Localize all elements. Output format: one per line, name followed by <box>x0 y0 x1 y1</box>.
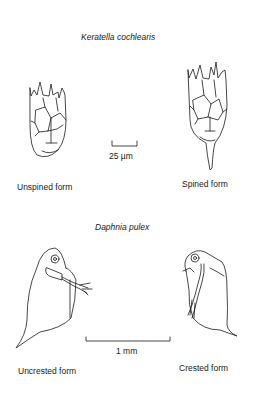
panel-title-keratella: Keratella cochlearis <box>81 32 155 42</box>
keratella-spined-drawing <box>188 62 227 170</box>
label-uncrested-form: Uncrested form <box>18 366 76 376</box>
daphnia-crested-drawing <box>183 251 237 336</box>
panel-title-daphnia: Daphnia pulex <box>95 222 149 232</box>
label-crested-form: Crested form <box>179 363 228 373</box>
label-unspined-form: Unspined form <box>17 182 72 192</box>
daphnia-uncrested-drawing <box>16 248 92 348</box>
label-spined-form: Spined form <box>182 179 228 189</box>
keratella-unspined-drawing <box>30 82 66 157</box>
scale-label-25um: 25 µm <box>109 151 133 161</box>
scale-bar-25um <box>112 141 137 146</box>
figure-drawings <box>0 0 255 396</box>
scale-label-1mm: 1 mm <box>116 346 137 356</box>
scale-bar-1mm <box>86 337 170 341</box>
